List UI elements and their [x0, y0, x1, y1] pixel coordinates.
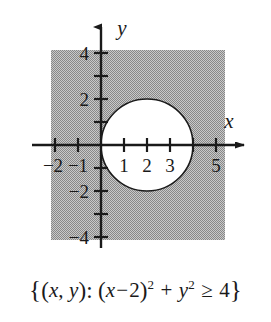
caption-plus: + [160, 278, 174, 302]
caption-row: {(x, y): (x−2)2 + y2 ≥ 4} [0, 258, 271, 322]
caption-exponent-b: 2 [188, 277, 195, 292]
caption-group-close: ) [140, 278, 148, 303]
caption-close-brace: } [230, 276, 242, 303]
caption-inner-x: x [106, 278, 115, 302]
x-tick-label--2: −2 [43, 155, 63, 176]
caption-exponent-a: 2 [148, 277, 155, 292]
caption-group-open: ( [98, 278, 106, 303]
caption-relation: ≥ [200, 278, 214, 302]
y-tick-label--4: −4 [69, 227, 90, 248]
x-axis-label: x [223, 109, 234, 133]
x-tick-label-2: 2 [142, 155, 152, 176]
figure-root: −2 −1 1 2 3 5 4 2 −2 −4 x y {(x, y): (x−… [0, 0, 271, 322]
set-builder-caption: {(x, y): (x−2)2 + y2 ≥ 4} [29, 276, 242, 304]
x-tick-label-1: 1 [119, 155, 129, 176]
caption-comma: , [58, 278, 69, 302]
caption-minus: − [115, 278, 129, 302]
x-tick-label-3: 3 [165, 155, 175, 176]
x-tick-label--1: −1 [68, 155, 88, 176]
y-axis-label: y [115, 16, 127, 40]
caption-y-term: y [179, 278, 188, 302]
y-tick-label-2: 2 [80, 89, 90, 110]
plot-area: −2 −1 1 2 3 5 4 2 −2 −4 x y [0, 0, 271, 258]
caption-two: 2 [129, 278, 140, 302]
coordinate-plane-svg: −2 −1 1 2 3 5 4 2 −2 −4 x y [0, 0, 271, 258]
y-tick-label--2: −2 [69, 181, 89, 202]
x-tick-label-5: 5 [211, 155, 221, 176]
caption-rhs: 4 [219, 278, 230, 302]
caption-open-brace: { [29, 276, 41, 303]
caption-colon: ): [78, 278, 92, 303]
caption-open-paren: ( [41, 278, 49, 303]
caption-var-x: x [49, 278, 58, 302]
y-tick-label-4: 4 [80, 43, 90, 64]
